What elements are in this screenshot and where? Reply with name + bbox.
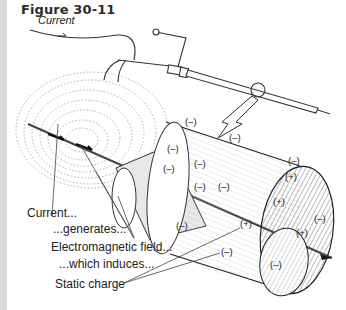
cable-illustration: (–) (–) (–) (–) (–) (–) (–) (–) (+) (+) … <box>0 0 346 310</box>
svg-text:(–): (–) <box>221 246 233 257</box>
label-generates: ...generates... <box>53 222 126 236</box>
svg-text:(+): (+) <box>285 171 297 182</box>
svg-text:(–): (–) <box>167 143 179 154</box>
svg-text:(–): (–) <box>314 213 326 224</box>
svg-text:(–): (–) <box>229 132 241 143</box>
svg-text:(–): (–) <box>194 158 206 169</box>
label-static-charge: Static charge <box>55 277 125 291</box>
svg-text:(–): (–) <box>185 116 197 127</box>
svg-text:(–): (–) <box>176 220 188 231</box>
svg-text:(–): (–) <box>270 259 282 270</box>
svg-text:(–): (–) <box>163 163 175 174</box>
current-wire <box>30 30 135 60</box>
svg-text:(–): (–) <box>218 181 230 192</box>
svg-text:(+): (+) <box>273 196 285 207</box>
label-current: Current... <box>27 206 77 220</box>
label-em-field: Electromagnetic field... <box>51 240 172 254</box>
svg-text:(–): (–) <box>194 181 206 192</box>
current-wire-label: Current <box>38 14 75 26</box>
svg-text:(–): (–) <box>288 155 300 166</box>
probe-assembly <box>104 29 330 114</box>
svg-text:(+): (+) <box>296 227 308 238</box>
svg-text:(+): (+) <box>240 218 252 229</box>
label-induces: ...which induces... <box>59 257 154 271</box>
